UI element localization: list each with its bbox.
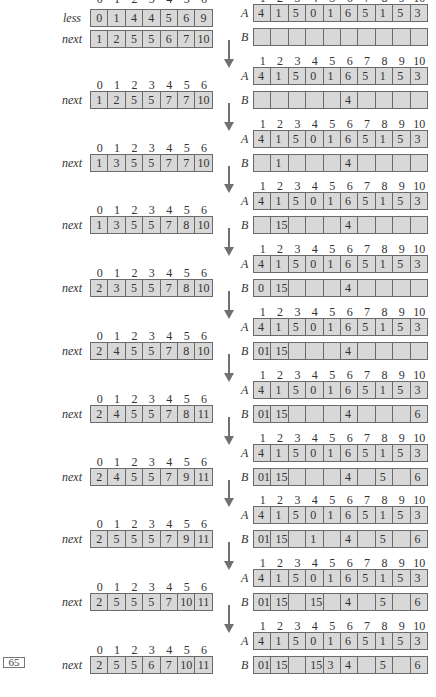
next-array-cell: 1 [90,30,108,48]
index-label: 4 [161,393,178,405]
next-array-cell: 10 [194,91,212,109]
less-array: 0144569 [90,9,213,27]
array-b-label: B [241,530,248,548]
array-b-cell [323,28,341,46]
next-array-cell: 1 [90,154,108,172]
index-label: 8 [376,369,393,381]
index-label: 6 [195,330,212,342]
down-arrow-icon [224,417,234,445]
array-a-cell: 1 [270,506,288,524]
arrow-shaft [228,480,230,500]
array-a-label: A [241,4,248,22]
array-b [253,28,428,46]
index-header: 0123456 [91,393,213,405]
next-array-cell: 5 [142,279,160,297]
index-label: 2 [126,393,143,405]
array-b-cell [357,91,375,109]
array-b-cell [410,216,428,234]
next-array: 23557810 [90,279,213,297]
index-label: 7 [358,557,375,569]
array-b-cell [288,28,306,46]
index-header: 0123456 [91,330,213,342]
index-label: 10 [411,494,428,506]
array-b-cell [305,342,323,360]
index-header: 12345678910 [254,243,428,255]
array-b-cell: 4 [340,91,358,109]
next-array-cell: 9 [177,468,195,486]
arrow-head [224,122,234,131]
array-b-cell [357,593,375,611]
array-a-cell: 6 [340,381,358,399]
index-label: 1 [254,118,271,130]
next-array-cell: 7 [177,30,195,48]
array-a: 4150165153 [253,4,428,22]
array-a-cell: 1 [375,255,393,273]
array-a-cell: 3 [410,318,428,336]
index-label: 7 [358,55,375,67]
array-b-cell: 15 [270,656,288,674]
array-a-cell: 1 [375,381,393,399]
array-a-cell: 5 [357,569,375,587]
array-a-cell: 3 [410,4,428,22]
next-array-cell: 5 [125,216,143,234]
index-label: 4 [306,432,323,444]
index-label: 2 [271,620,288,632]
next-array-cell: 5 [142,30,160,48]
array-a: 4150165153 [253,569,428,587]
array-a-cell: 1 [270,569,288,587]
array-b-cell: 5 [375,530,393,548]
index-label: 1 [254,243,271,255]
next-array-cell: 5 [142,530,160,548]
next-array-cell: 5 [125,342,143,360]
array-a-cell: 5 [357,67,375,85]
array-a-cell: 4 [253,569,271,587]
arrow-shaft [228,40,230,61]
index-label: 4 [161,79,178,91]
index-label: 3 [143,267,160,279]
next-array-cell: 5 [142,91,160,109]
array-b-cell [270,28,288,46]
index-label: 2 [271,118,288,130]
down-arrow-icon [224,228,234,256]
index-label: 2 [271,369,288,381]
next-label: next [62,405,82,423]
index-label: 4 [306,118,323,130]
next-array-cell: 2 [90,279,108,297]
array-b-cell: 15 [270,593,288,611]
index-label: 0 [91,518,108,530]
next-array-cell: 7 [160,405,178,423]
index-header: 12345678910 [254,620,428,632]
array-a-cell: 1 [270,67,288,85]
array-b-label: B [241,405,248,423]
array-b-cell [305,91,323,109]
index-label: 4 [161,267,178,279]
next-array-cell: 2 [90,656,108,674]
array-b-cell [392,468,410,486]
array-a-cell: 5 [392,318,410,336]
arrow-shaft [228,354,230,375]
next-array-cell: 4 [107,405,125,423]
next-label: next [62,342,82,360]
array-b-cell [392,342,410,360]
index-label: 5 [324,306,341,318]
array-a-cell: 5 [392,444,410,462]
array-a-cell: 5 [357,632,375,650]
array-b-cell [323,279,341,297]
index-label: 1 [108,644,125,656]
array-b-cell [410,342,428,360]
array-a-cell: 6 [340,506,358,524]
array-b-cell [357,530,375,548]
next-array-cell: 5 [125,91,143,109]
array-b-cell [253,154,271,172]
array-b-cell [392,593,410,611]
array-a-cell: 4 [253,67,271,85]
array-a-cell: 0 [305,255,323,273]
index-label: 0 [91,456,108,468]
index-label: 8 [376,243,393,255]
index-label: 10 [411,243,428,255]
index-label: 10 [411,306,428,318]
array-a-cell: 1 [323,632,341,650]
array-a-cell: 1 [270,381,288,399]
index-label: 5 [178,581,195,593]
next-array: 255571011 [90,593,213,611]
